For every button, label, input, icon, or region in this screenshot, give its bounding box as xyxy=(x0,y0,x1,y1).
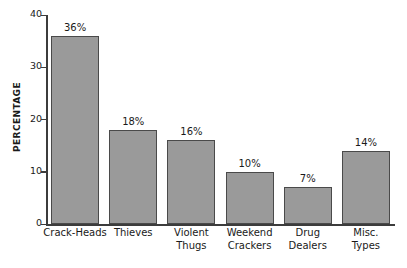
x-axis-label: Misc.Types xyxy=(333,227,399,252)
bar[interactable] xyxy=(51,36,99,224)
x-axis-label: Thieves xyxy=(100,227,166,240)
x-axis-labels: Crack-HeadsThievesViolentThugsWeekendCra… xyxy=(46,227,395,267)
x-axis-label-line2: Crackers xyxy=(217,240,283,253)
bar[interactable] xyxy=(167,140,215,224)
bar-group: 16% xyxy=(167,15,215,224)
bar[interactable] xyxy=(109,130,157,224)
x-axis-label: ViolentThugs xyxy=(158,227,224,252)
bar-group: 14% xyxy=(342,15,390,224)
y-tick-label: 20 xyxy=(30,113,42,124)
x-axis-label-line2: Thugs xyxy=(158,240,224,253)
bar-value-label: 16% xyxy=(167,126,215,137)
bar-group: 18% xyxy=(109,15,157,224)
bar-chart: PERCENTAGE 403020100 36%18%16%10%7%14% C… xyxy=(0,0,407,268)
x-axis-label-line1: Violent xyxy=(174,227,209,238)
x-axis-label-line1: Drug xyxy=(295,227,320,238)
bar-group: 7% xyxy=(284,15,332,224)
bar-value-label: 10% xyxy=(226,158,274,169)
bar-value-label: 18% xyxy=(109,116,157,127)
bar[interactable] xyxy=(226,172,274,224)
y-tick-label: 40 xyxy=(30,8,42,19)
x-axis-label: DrugDealers xyxy=(275,227,341,252)
x-axis-label-line1: Crack-Heads xyxy=(43,227,106,238)
plot-area: 36%18%16%10%7%14% xyxy=(46,15,395,224)
x-axis-label-line2: Types xyxy=(333,240,399,253)
bar-value-label: 7% xyxy=(284,173,332,184)
bar[interactable] xyxy=(342,151,390,224)
y-tick-label: 10 xyxy=(30,165,42,176)
bar-group: 36% xyxy=(51,15,99,224)
bar[interactable] xyxy=(284,187,332,224)
x-axis-label-line1: Weekend xyxy=(227,227,273,238)
x-axis-label: Crack-Heads xyxy=(42,227,108,240)
y-tick-label: 30 xyxy=(30,60,42,71)
x-axis-label-line1: Thieves xyxy=(114,227,153,238)
y-axis-title: PERCENTAGE xyxy=(12,62,22,172)
bar-group: 10% xyxy=(226,15,274,224)
bar-value-label: 14% xyxy=(342,137,390,148)
x-axis-line xyxy=(46,224,395,226)
x-axis-label-line2: Dealers xyxy=(275,240,341,253)
x-axis-label: WeekendCrackers xyxy=(217,227,283,252)
x-axis-label-line1: Misc. xyxy=(353,227,378,238)
bar-value-label: 36% xyxy=(51,22,99,33)
